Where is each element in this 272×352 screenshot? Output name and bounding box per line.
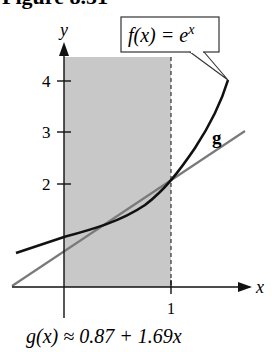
y-tick-label-3: 3 [42, 123, 51, 142]
x-axis-arrow-icon [238, 282, 252, 292]
y-axis-arrow-icon [59, 42, 69, 56]
figure-canvas: Figure 8.51 x y 4 3 2 1 f(x) = ex g g(x)… [0, 0, 272, 352]
x-axis-label: x [255, 277, 264, 297]
line-label-g: g [212, 127, 222, 148]
y-axis-label: y [58, 20, 68, 40]
callout-pointer [190, 52, 228, 80]
y-tick-label-4: 4 [42, 72, 51, 91]
callout-label-f: f(x) = ex [128, 22, 195, 47]
figure-caption: Figure 8.51 [2, 0, 108, 9]
shaded-region [64, 57, 171, 287]
x-tick-label-1: 1 [167, 300, 175, 317]
equation-caption: g(x) ≈ 0.87 + 1.69x [26, 325, 182, 348]
y-tick-label-2: 2 [42, 175, 51, 194]
